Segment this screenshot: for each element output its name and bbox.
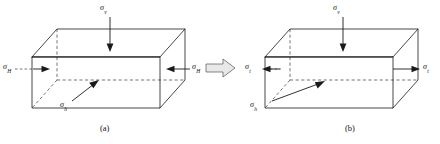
panel-b-left-stress-label: σt [245,63,250,73]
sigma-subscript: v [104,9,106,15]
block-b-front-face [265,57,393,108]
panel-b-right-stress-label: σt [423,63,428,73]
sigma-subscript: t [427,68,429,74]
panel-a-right-stress-label: σH [192,63,200,73]
sigma-subscript: t [249,68,251,74]
panel-b-bottom-stress-label: σh [250,101,257,111]
block-a-top-face [32,29,185,57]
panel-a-left-stress-label: σH [3,63,11,73]
sigma-subscript: H [196,68,200,74]
panel-a-vertical-stress-label: σv [100,4,106,14]
stress-block-figure: σv σH σH σh (a) σv σt σt σh (b) [0,0,440,144]
block-b-top-face [265,29,418,57]
panel-a-block [32,29,185,108]
figure-canvas [0,0,440,144]
panel-b-vertical-stress-label: σv [333,4,339,14]
panel-a-caption: (a) [100,123,109,133]
panel-a-bottom-stress-label: σh [60,101,67,111]
panel-b-block [265,29,418,108]
sigma-subscript: H [7,68,11,74]
panel-b-caption: (b) [345,123,355,133]
sigma-subscript: h [254,106,257,112]
sigma-subscript: v [337,9,339,15]
transition-block-arrow [206,59,235,77]
sigma-subscript: h [64,106,67,112]
